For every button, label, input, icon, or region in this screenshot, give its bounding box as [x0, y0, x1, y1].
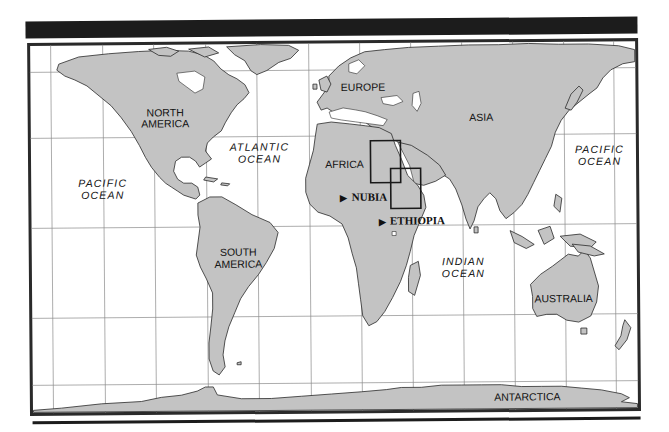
label-pacific-east-2: OCEAN [578, 155, 621, 167]
bottom-rule [33, 417, 641, 425]
label-pacific-east: PACIFIC [575, 143, 624, 155]
nubia-marker-icon: ▶ [339, 193, 348, 203]
label-ethiopia: ETHIOPIA [390, 214, 445, 226]
label-pacific-west: PACIFIC [78, 177, 127, 189]
label-asia: ASIA [469, 111, 493, 123]
label-south-america-2: AMERICA [214, 258, 262, 270]
label-indian: INDIAN [442, 255, 485, 267]
world-map: NORTH AMERICA SOUTH AMERICA EUROPE AFRIC… [0, 0, 669, 432]
label-australia: AUSTRALIA [534, 292, 592, 304]
lake-victoria [392, 232, 396, 236]
label-north-america-2: AMERICA [141, 117, 189, 129]
label-atlantic-2: OCEAN [238, 152, 281, 164]
label-nubia: NUBIA [352, 191, 388, 203]
title-bar [25, 17, 637, 39]
sri-lanka [474, 227, 478, 233]
label-indian-2: OCEAN [442, 267, 485, 279]
label-antarctica: ANTARCTICA [494, 390, 560, 403]
label-south-america: SOUTH [220, 246, 257, 258]
label-europe: EUROPE [341, 81, 385, 93]
label-atlantic: ATLANTIC [229, 140, 290, 152]
label-pacific-west-2: OCEAN [81, 189, 124, 201]
ethiopia-marker-icon: ▶ [378, 217, 387, 227]
label-africa: AFRICA [325, 158, 364, 170]
tasmania [581, 328, 587, 334]
